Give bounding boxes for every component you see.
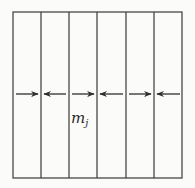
strip-dividers: [41, 12, 154, 178]
mass-label: mj: [71, 111, 88, 128]
strip-diagram: [0, 0, 195, 188]
